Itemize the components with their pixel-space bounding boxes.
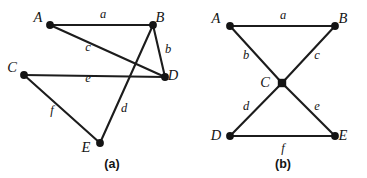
vertex-label-a-E: E xyxy=(81,139,91,155)
vertex-label-b-B: B xyxy=(339,10,348,26)
edge-a-c xyxy=(50,25,165,77)
vertex-label-b-E: E xyxy=(338,127,348,143)
edge-a-e xyxy=(24,75,165,77)
edge-label-b-d: d xyxy=(243,99,250,113)
vertex-b-D xyxy=(226,132,234,140)
edge-label-b-a: a xyxy=(280,8,286,22)
edge-label-b-f: f xyxy=(281,141,286,155)
edge-label-b-c: c xyxy=(314,48,320,62)
vertex-a-C xyxy=(20,71,28,79)
panel-a: acbdefABCDE(a) xyxy=(7,7,179,171)
vertex-label-b-D: D xyxy=(210,127,222,143)
edge-b-c xyxy=(282,26,335,83)
vertex-label-b-C: C xyxy=(260,74,270,90)
edge-label-a-d: d xyxy=(121,101,128,115)
graph-figure: acbdefABCDE(a) abcdefABCDE(b) xyxy=(0,0,367,178)
edge-label-a-c: c xyxy=(85,40,91,54)
edge-label-b-b: b xyxy=(243,48,249,62)
vertex-a-E xyxy=(96,139,104,147)
panel-caption-a: (a) xyxy=(104,157,119,171)
edge-label-b-e: e xyxy=(314,99,320,113)
figure-canvas: acbdefABCDE(a) abcdefABCDE(b) xyxy=(0,0,367,178)
vertex-a-A xyxy=(46,21,54,29)
edge-a-d xyxy=(100,25,153,143)
vertex-b-C xyxy=(278,79,286,87)
vertex-label-a-C: C xyxy=(7,59,17,75)
edge-b-e xyxy=(282,83,335,136)
edge-label-a-e: e xyxy=(85,71,91,85)
edge-label-a-f: f xyxy=(50,103,55,117)
vertex-b-A xyxy=(226,22,234,30)
panel-caption-b: (b) xyxy=(275,157,291,171)
vertex-label-a-D: D xyxy=(167,67,179,83)
edge-b-d xyxy=(230,83,282,136)
vertex-label-a-A: A xyxy=(33,9,43,25)
edge-a-b xyxy=(153,25,165,77)
panel-b: abcdefABCDE(b) xyxy=(210,8,348,171)
edge-label-a-b: b xyxy=(165,42,171,56)
edge-label-a-a: a xyxy=(100,7,106,21)
vertex-label-b-A: A xyxy=(211,10,221,26)
vertex-label-a-B: B xyxy=(156,9,165,25)
edge-b-b xyxy=(230,26,282,83)
edge-a-f xyxy=(24,75,100,143)
